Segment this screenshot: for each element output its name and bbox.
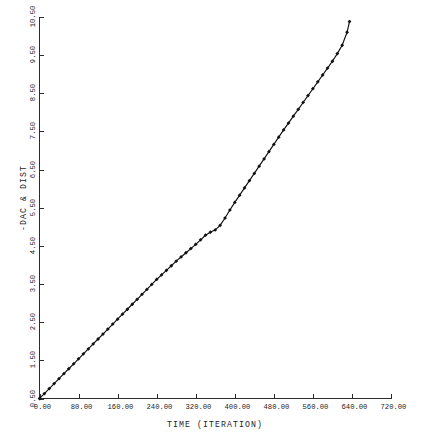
x-tick-label: 560.00	[303, 403, 329, 411]
y-tick-label: 6.50	[29, 161, 37, 178]
x-tick-label: 400.00	[225, 403, 251, 411]
y-tick-label: 10.50	[29, 6, 37, 28]
x-tick-label: 480.00	[264, 403, 290, 411]
y-tick-label: 7.50	[29, 122, 37, 139]
x-axis-title: TIME (ITERATION)	[167, 420, 263, 429]
y-tick-label: 4.50	[29, 237, 37, 254]
x-tick-label: 640.00	[342, 403, 368, 411]
x-tick-label: 160.00	[108, 403, 134, 411]
y-tick-label: 3.50	[29, 275, 37, 292]
y-tick-label: 2.50	[29, 313, 37, 330]
x-tick-label: 720.00	[381, 403, 407, 411]
x-tick-label: 240.00	[147, 403, 173, 411]
x-tick-label: 80.00	[71, 403, 93, 411]
x-tick-label: 320.00	[186, 403, 212, 411]
y-tick-label: 1.50	[29, 351, 37, 368]
y-tick-label: 5.50	[29, 199, 37, 216]
x-tick-label: 0.00	[34, 403, 51, 411]
y-tick-label: 8.50	[29, 84, 37, 101]
y-axis-title: -DAC & DIST	[19, 165, 28, 231]
chart-canvas: 0.501.502.503.504.505.506.507.508.509.50…	[0, 0, 426, 438]
line-chart: 0.501.502.503.504.505.506.507.508.509.50…	[0, 0, 426, 438]
y-tick-label: 9.50	[29, 46, 37, 63]
